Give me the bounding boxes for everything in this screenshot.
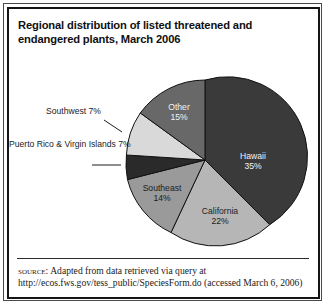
pie-callout-puerto-rico-value: 7% <box>118 139 130 149</box>
pie-callout-puerto-rico: Puerto Rico & Virgin Islands 7% <box>9 139 89 149</box>
pie-label-other-name: Other <box>168 102 190 112</box>
pie-label-california-name: California <box>202 206 238 216</box>
source-label: SOURCE: <box>18 265 48 276</box>
figure-title: Regional distribution of listed threaten… <box>18 18 308 46</box>
pie-callout-southwest: Southwest 7% <box>9 106 101 116</box>
source-divider <box>17 258 309 259</box>
leader-line-southwest <box>104 120 122 132</box>
source-note: SOURCE: Adapted from data retrieved via … <box>18 265 310 290</box>
pie-callout-puerto-rico-line1: Puerto Rico & <box>9 139 62 149</box>
pie-label-hawaii-name: Hawaii <box>240 151 266 161</box>
pie-label-southeast: Southeast 14% <box>129 183 195 203</box>
pie-chart: Hawaii 35% California 22% Southeast 14% … <box>9 58 318 253</box>
source-text: Adapted from data retrieved via query at… <box>18 265 303 288</box>
figure-container: Regional distribution of listed threaten… <box>0 0 326 305</box>
pie-callout-southwest-name: Southwest <box>46 106 86 116</box>
pie-label-southeast-name: Southeast <box>143 183 182 193</box>
pie-label-hawaii: Hawaii 35% <box>221 151 285 171</box>
pie-callout-southwest-value: 7% <box>89 106 101 116</box>
pie-label-california: California 22% <box>185 206 255 226</box>
pie-label-other: Other 15% <box>149 102 209 122</box>
pie-label-california-value: 22% <box>185 216 255 226</box>
pie-label-southeast-value: 14% <box>129 193 195 203</box>
pie-label-hawaii-value: 35% <box>221 161 285 171</box>
pie-label-other-value: 15% <box>149 112 209 122</box>
pie-callout-puerto-rico-line2: Virgin Islands <box>64 139 115 149</box>
